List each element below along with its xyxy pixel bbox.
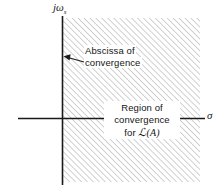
imaginary-axis-label-subscript: s: [64, 8, 67, 16]
region-of-convergence-hatch: [62, 18, 200, 182]
diagram-canvas: [0, 0, 221, 194]
region-line-3-prefix: for: [124, 127, 135, 138]
abscissa-line-2: convergence: [84, 57, 142, 69]
laplace-roc-figure: jωs σ Abscissa of convergence Region of …: [0, 0, 221, 194]
region-of-convergence-annotation: Region of convergence for ℒ(A): [104, 101, 180, 139]
imaginary-axis-label-main: jω: [53, 1, 64, 13]
laplace-operator-argument: (A): [147, 127, 160, 138]
real-axis-label: σ: [207, 110, 212, 121]
region-line-2: convergence: [104, 114, 180, 127]
region-line-3: for ℒ(A): [104, 126, 180, 139]
region-line-1: Region of: [104, 101, 180, 114]
laplace-operator-symbol: ℒ: [138, 126, 146, 138]
abscissa-line-1: Abscissa of: [84, 45, 136, 57]
imaginary-axis-label: jωs: [53, 2, 67, 16]
abscissa-of-convergence-annotation: Abscissa of convergence: [84, 45, 142, 68]
